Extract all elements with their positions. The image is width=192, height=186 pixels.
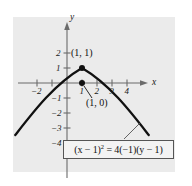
parabola-figure: x y −2 1 2 3 4 2 1 −1 −2 −3 −4 (1, 1) (1… <box>0 0 192 186</box>
x-tick-label-2: 2 <box>95 87 100 96</box>
equation-leader-line <box>124 123 140 139</box>
x-tick-label-4: 4 <box>125 87 130 96</box>
x-tick-label-1: 1 <box>80 87 85 96</box>
parabola-curve <box>15 68 149 135</box>
y-tick-label-neg4: −4 <box>51 139 62 148</box>
y-tick-label-neg2: −2 <box>51 109 62 118</box>
y-tick-label-neg3: −3 <box>51 124 62 133</box>
x-tick-label-3: 3 <box>110 87 115 96</box>
y-tick-label-2: 2 <box>56 49 61 58</box>
vertex-point <box>79 65 85 71</box>
equation-callout-box: (x − 1)2 = 4(−1)(y − 1) <box>63 140 174 159</box>
x-tick-label-neg2: −2 <box>31 87 42 96</box>
equation-lhs: (x − 1) <box>74 144 101 155</box>
y-tick-label-neg1: −1 <box>51 94 62 103</box>
y-tick-label-1: 1 <box>56 64 61 73</box>
equation-text: (x − 1)2 = 4(−1)(y − 1) <box>74 144 163 155</box>
vertex-label: (1, 1) <box>71 48 93 58</box>
equation-rhs: = 4(−1)(y − 1) <box>104 144 163 155</box>
y-axis-label: y <box>70 13 74 23</box>
focus-label: (1, 0) <box>86 98 108 108</box>
x-axis-label: x <box>152 78 156 88</box>
